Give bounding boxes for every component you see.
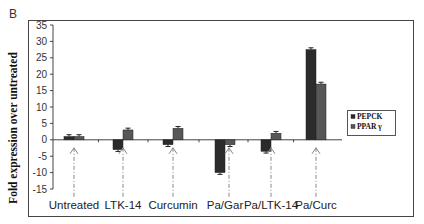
bar-ppar [123, 130, 133, 140]
legend-label: PPAR γ [357, 122, 382, 131]
bar-pepck [64, 137, 74, 140]
x-category-label: Pa/Curc [295, 199, 337, 211]
bar-pepck [306, 50, 316, 140]
bar-ppar [271, 133, 281, 140]
y-tick-label: 15 [36, 85, 48, 96]
legend-label: PEPCK [357, 112, 383, 121]
y-tick-label: 30 [36, 36, 48, 47]
bar-ppar [225, 140, 235, 145]
y-tick-label: 35 [36, 20, 48, 31]
y-tick-label: -15 [33, 184, 48, 195]
plot-area: 35302520151050-5-10-15UntreatedLTK-14Cur… [33, 20, 342, 212]
x-category-label: Untreated [49, 199, 100, 211]
y-tick-label: 5 [41, 118, 47, 129]
bar-pepck [113, 140, 123, 150]
legend-swatch [351, 115, 355, 119]
x-category-label: LTK-14 [105, 199, 142, 211]
bar-ppar [74, 137, 84, 140]
x-category-label: Curcumin [148, 199, 197, 211]
y-tick-label: 10 [36, 102, 48, 113]
y-tick-label: -5 [38, 151, 47, 162]
bar-pepck [163, 140, 173, 145]
legend: PEPCKPPAR γ [348, 111, 396, 136]
y-tick-label: 0 [41, 134, 47, 145]
bar-ppar [173, 128, 183, 139]
x-category-label: Pa/LTK-14 [244, 199, 299, 211]
y-tick-label: 20 [36, 69, 48, 80]
bar-pepck [215, 140, 225, 173]
legend-swatch [351, 125, 355, 129]
y-tick-label: 25 [36, 52, 48, 63]
y-axis-label: Fold expression over untreated [7, 52, 20, 204]
x-category-label: Pa/Gar [207, 199, 244, 211]
y-tick-label: -10 [33, 167, 48, 178]
bar-chart: 35302520151050-5-10-15UntreatedLTK-14Cur… [0, 0, 424, 224]
bar-ppar [316, 84, 326, 140]
